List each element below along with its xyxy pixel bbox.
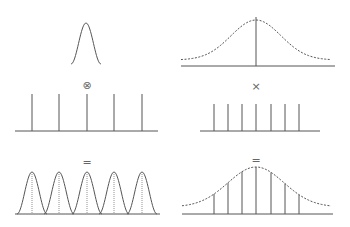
bottom-left-periodic-pulses: = (15, 156, 160, 214)
equals-operator-icon: = (82, 156, 91, 169)
top-left-narrow-gaussian (71, 23, 101, 64)
narrow-gaussian-curve (71, 23, 101, 64)
multiply-operator-icon: × (251, 80, 260, 93)
equals-operator-icon: = (251, 154, 260, 167)
middle-right-impulse-train: × (200, 80, 320, 131)
middle-left-impulse-train: ⊗ (15, 79, 158, 131)
convolution-operator-icon: ⊗ (82, 79, 91, 92)
bottom-right-samples (214, 167, 299, 214)
middle-right-spikes (214, 104, 299, 131)
middle-left-spikes (32, 94, 142, 131)
convolution-sampling-diagram: ⊗ × = = (0, 0, 350, 227)
bottom-left-pulses (17, 172, 157, 214)
top-right-wide-gaussian (181, 17, 335, 66)
bottom-right-sampled-gaussian: = (182, 154, 333, 214)
